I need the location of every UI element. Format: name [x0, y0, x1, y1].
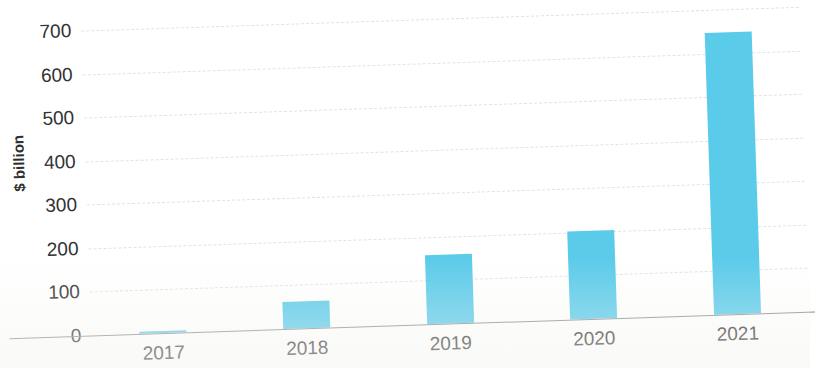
- plot-area: [81, 0, 810, 340]
- y-axis-tick-labels: 700 600 500 400 300 200 100 0: [3, 11, 83, 368]
- chart-skew-layer: $ billion 700 600 500 400 300 200 100 0 …: [0, 0, 814, 368]
- bar-2018: [282, 301, 330, 330]
- bar-series: [81, 0, 810, 340]
- x-tick-label: 2018: [262, 336, 353, 361]
- x-tick-label: 2020: [549, 326, 640, 351]
- y-tick-label: 100: [24, 282, 81, 303]
- y-tick-label: 600: [16, 65, 73, 86]
- y-tick-label: 200: [22, 239, 79, 260]
- bar-2019: [424, 254, 473, 324]
- x-tick-label: 2021: [693, 322, 784, 347]
- x-tick-label: 2017: [118, 341, 209, 366]
- y-tick-label: 400: [19, 152, 76, 173]
- bar-2021: [704, 31, 760, 315]
- x-tick-label: 2019: [406, 331, 497, 356]
- y-tick-label: 300: [21, 195, 78, 216]
- y-tick-label: 500: [18, 108, 75, 129]
- bar-2020: [567, 230, 617, 320]
- y-tick-label: 700: [15, 21, 72, 42]
